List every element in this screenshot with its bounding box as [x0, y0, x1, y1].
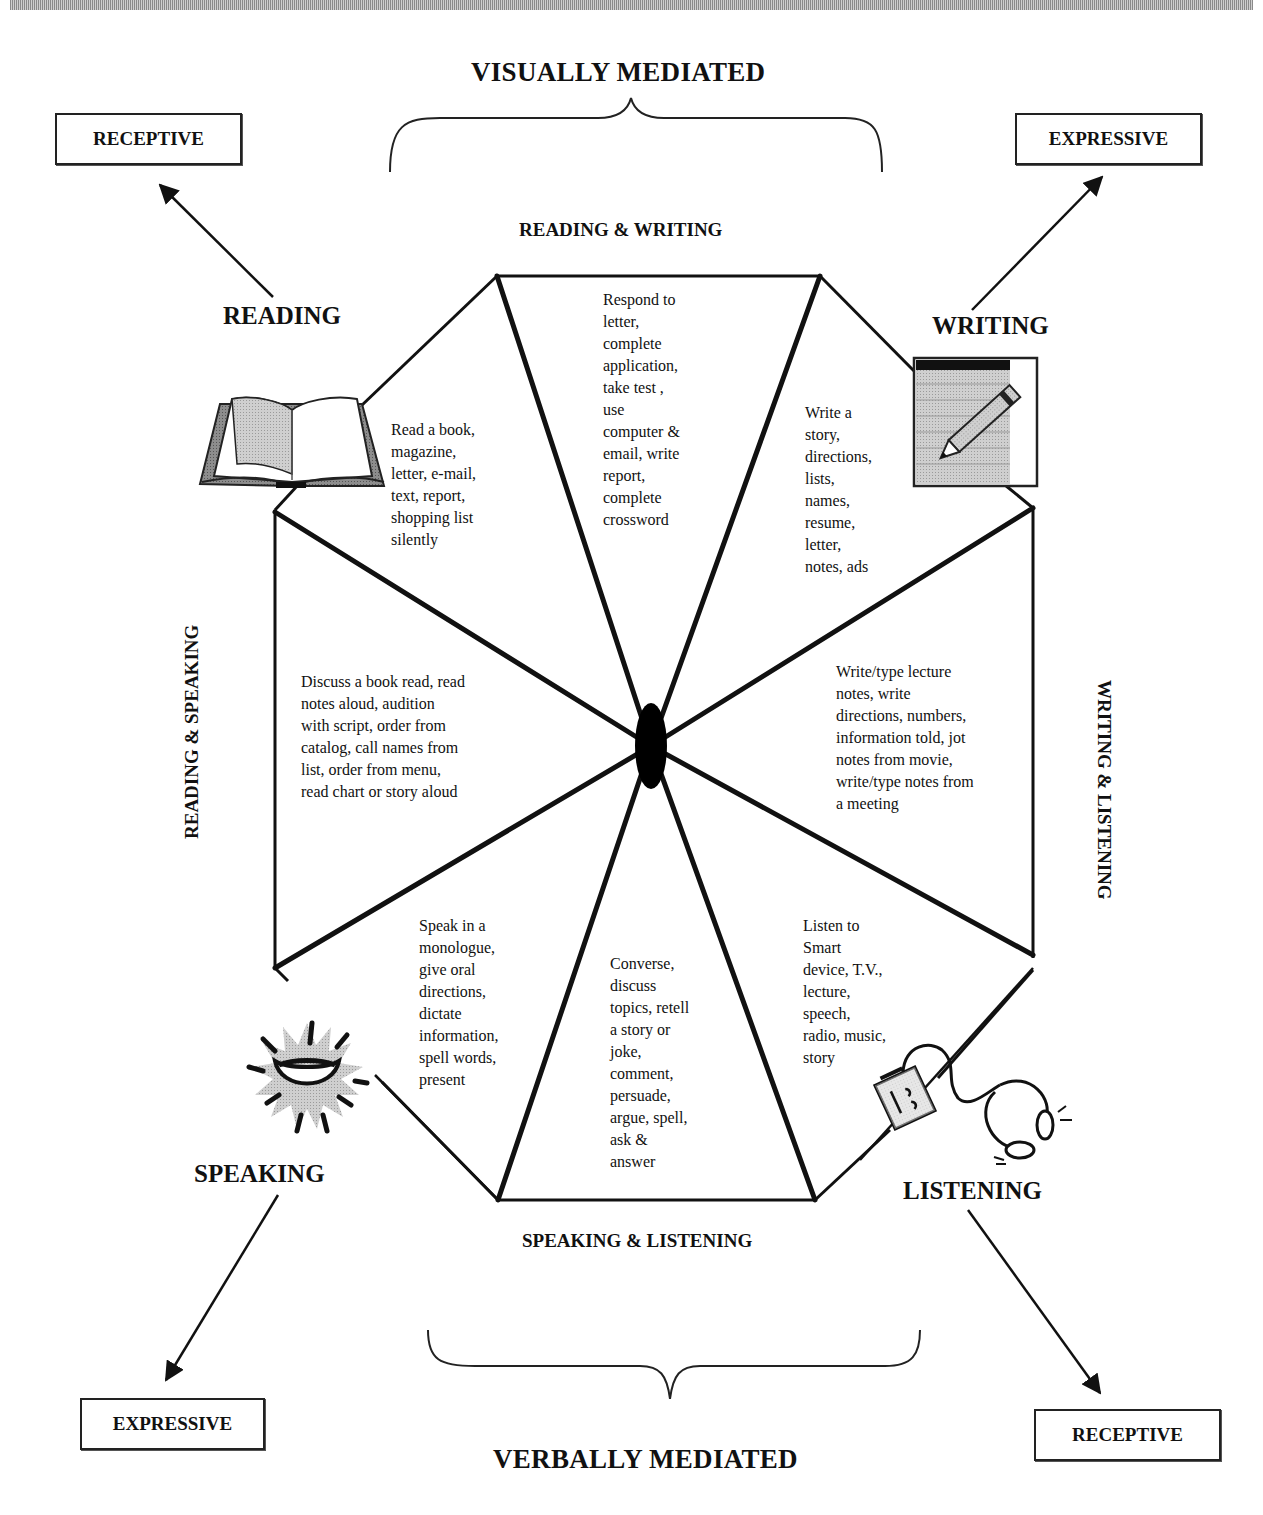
arrow-writing-expressive: [972, 177, 1102, 310]
bottom-brace: [428, 1330, 920, 1399]
writing-label: WRITING: [932, 312, 1049, 340]
segment-speaking: Speak in a monologue, give oral directio…: [419, 915, 499, 1091]
shouting-mouth-icon: [249, 1023, 367, 1131]
segment-reading-writing: Respond to letter, complete application,…: [603, 289, 680, 531]
top-brace: [390, 98, 882, 172]
speaking-listening-label: SPEAKING & LISTENING: [522, 1230, 752, 1252]
receptive-box-top-left: RECEPTIVE: [55, 113, 242, 165]
segment-writing: Write a story, directions, lists, names,…: [805, 402, 872, 578]
receptive-box-bottom-right: RECEPTIVE: [1034, 1409, 1221, 1461]
notepad-pencil-icon: [914, 358, 1037, 486]
arrow-speaking-expressive: [166, 1195, 278, 1380]
center-hub: [635, 703, 667, 789]
speaking-label: SPEAKING: [194, 1160, 325, 1188]
verbally-mediated-title: VERBALLY MEDIATED: [493, 1444, 798, 1475]
arrow-reading-receptive: [160, 185, 273, 297]
segment-writing-listening: Write/type lecture notes, write directio…: [836, 661, 974, 815]
reading-label: READING: [223, 302, 341, 330]
segment-reading-speaking: Discuss a book read, read notes aloud, a…: [301, 671, 465, 803]
open-book-icon: [200, 397, 384, 488]
writing-listening-label: WRITING & LISTENING: [1066, 680, 1116, 815]
expressive-box-bottom-left: EXPRESSIVE: [80, 1398, 265, 1450]
reading-writing-label: READING & WRITING: [519, 219, 722, 241]
segment-speaking-listening: Converse, discuss topics, retell a story…: [610, 953, 689, 1173]
segment-listening: Listen to Smart device, T.V., lecture, s…: [803, 915, 886, 1069]
cassette-headphones-icon: [873, 1045, 1072, 1164]
visually-mediated-title: VISUALLY MEDIATED: [471, 57, 765, 88]
reading-speaking-label: READING & SPEAKING: [180, 694, 230, 839]
segment-reading: Read a book, magazine, letter, e-mail, t…: [391, 419, 476, 551]
expressive-box-top-right: EXPRESSIVE: [1015, 113, 1202, 165]
arrow-listening-receptive: [968, 1210, 1100, 1393]
listening-label: LISTENING: [903, 1177, 1042, 1205]
